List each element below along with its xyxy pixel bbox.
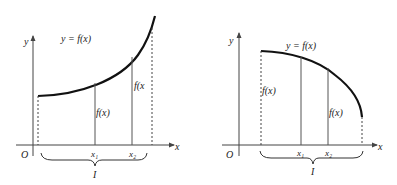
y-axis-label: y [23, 36, 29, 47]
point-label-x2: x₂ [128, 149, 136, 159]
value-label-x1: f(x) [96, 107, 111, 119]
curve-label: y = f(x) [60, 33, 92, 45]
x-axis-label: x [174, 141, 180, 152]
origin-label: O [21, 149, 28, 160]
value-label-x2: f(x) [329, 107, 344, 119]
diagram-increasing: y O x y = f(x) f(x) f(x x₁ x₂ I [16, 16, 180, 180]
y-axis-label: y [228, 35, 234, 46]
point-label-x1: x₁ [90, 149, 98, 159]
point-label-x2: x₂ [324, 148, 332, 158]
interval-label: I [92, 169, 97, 180]
point-label-x1: x₁ [296, 148, 304, 158]
interval-label: I [310, 166, 315, 177]
curve-label: y = f(x) [285, 40, 317, 52]
x-axis-label: x [377, 141, 383, 152]
interval-brace [260, 151, 363, 164]
value-label-x1: f(x) [262, 85, 277, 97]
monotonic-function-diagrams: y O x y = f(x) f(x) f(x x₁ x₂ I y O x y … [0, 0, 397, 185]
value-label-x2: f(x [134, 80, 145, 92]
curve-decreasing [261, 51, 362, 117]
origin-label: O [226, 149, 233, 160]
diagram-decreasing: y O x y = f(x) f(x) f(x) x₁ x₂ I [222, 33, 383, 177]
